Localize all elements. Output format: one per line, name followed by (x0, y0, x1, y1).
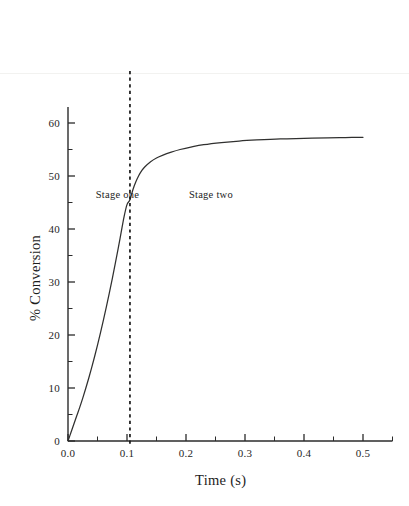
x-tick-label: 0.1 (111, 448, 143, 459)
y-tick-label: 10 (34, 383, 60, 394)
chart-figure: 0102030405060 0.00.10.20.30.40.5 Stage o… (0, 0, 409, 506)
y-axis-title: % Conversion (27, 235, 44, 321)
axes-group (68, 107, 393, 441)
y-axis-title-wrap: % Conversion (10, 185, 30, 325)
x-tick-label: 0.5 (347, 448, 379, 459)
x-axis-title: Time (s) (195, 472, 246, 489)
x-tick-label: 0.0 (52, 448, 84, 459)
annotation-stage-two: Stage two (189, 189, 233, 200)
x-tick-label: 0.3 (229, 448, 261, 459)
y-tick-label: 50 (34, 171, 60, 182)
y-tick-label: 40 (34, 224, 60, 235)
chart-plot-area (0, 0, 409, 506)
conversion-curve (68, 137, 363, 441)
y-tick-label: 20 (34, 330, 60, 341)
x-tick-label: 0.4 (288, 448, 320, 459)
ticks-group (68, 123, 393, 441)
annotation-stage-one: Stage one (96, 189, 139, 200)
y-tick-label: 60 (34, 118, 60, 129)
y-tick-label: 0 (34, 436, 60, 447)
x-tick-label: 0.2 (170, 448, 202, 459)
